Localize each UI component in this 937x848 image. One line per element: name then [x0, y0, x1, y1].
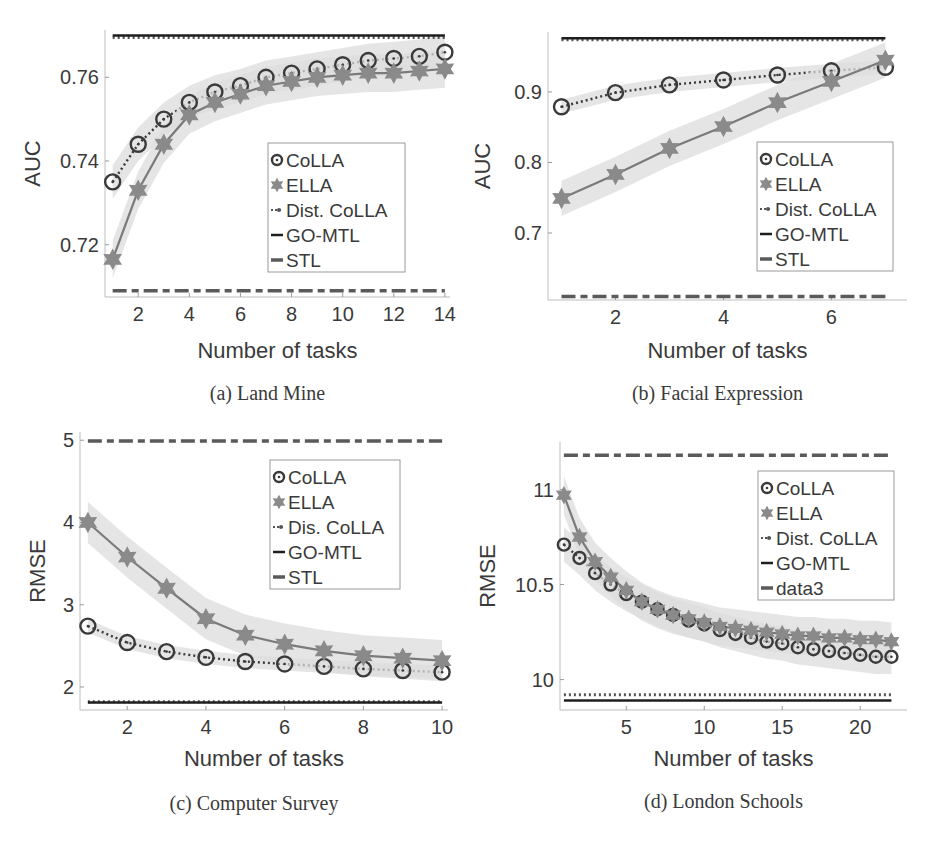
y-axis-label: AUC	[470, 143, 495, 190]
legend-entry: STL	[288, 567, 323, 588]
legend-entry: GO-MTL	[286, 225, 360, 246]
x-tick-label: 6	[235, 303, 246, 325]
x-tick-label: 8	[358, 716, 369, 738]
legend-entry: CoLLA	[286, 150, 344, 171]
x-axis-label: Number of tasks	[653, 746, 813, 771]
y-tick-label: 0.76	[60, 66, 99, 88]
legend-entry: GO-MTL	[288, 542, 362, 563]
legend-entry: Dist. CoLLA	[775, 199, 877, 220]
chart-london-schools: 1010.5115101520Number of tasksRMSE(d) Lo…	[470, 420, 937, 848]
chart-panel-c: 2345246810Number of tasksRMSE(c) Compute…	[0, 420, 470, 848]
figure-caption: (d) London Schools	[644, 790, 803, 813]
y-axis-label: RMSE	[475, 544, 500, 608]
legend: CoLLAELLADis. CoLLAGO-MTLSTL	[270, 460, 400, 589]
chart-panel-a: 0.720.740.762468101214Number of tasksAUC…	[0, 0, 470, 420]
x-tick-label: 4	[200, 716, 211, 738]
y-tick-label: 0.72	[60, 234, 99, 256]
legend-entry: CoLLA	[288, 467, 346, 488]
y-tick-label: 10	[532, 669, 554, 691]
x-tick-label: 2	[133, 303, 144, 325]
legend-entry: ELLA	[775, 174, 822, 195]
y-tick-label: 11	[533, 479, 554, 501]
legend-entry: CoLLA	[776, 478, 834, 499]
y-tick-label: 4	[63, 511, 74, 533]
figure-caption: (c) Computer Survey	[170, 792, 339, 815]
legend-entry: data3	[776, 578, 824, 599]
x-tick-label: 14	[434, 303, 456, 325]
y-tick-label: 0.9	[514, 81, 542, 103]
y-axis-label: RMSE	[25, 539, 50, 603]
x-tick-label: 12	[383, 303, 405, 325]
x-axis-label: Number of tasks	[184, 746, 344, 771]
legend: CoLLAELLADist. CoLLAGO-MTLdata3	[758, 471, 894, 600]
y-tick-label: 0.7	[514, 222, 542, 244]
y-axis-label: AUC	[20, 140, 45, 187]
y-tick-label: 10.5	[515, 574, 554, 596]
legend: CoLLAELLADist. CoLLAGO-MTLSTL	[757, 142, 893, 271]
x-tick-label: 2	[122, 716, 133, 738]
chart-panel-b: 0.70.80.9246Number of tasksAUC(b) Facial…	[470, 0, 937, 420]
x-tick-label: 4	[184, 303, 195, 325]
legend-entry: STL	[775, 249, 810, 270]
legend-entry: ELLA	[286, 175, 333, 196]
legend-entry: CoLLA	[775, 149, 833, 170]
y-tick-label: 0.74	[60, 150, 99, 172]
x-tick-label: 10	[431, 716, 453, 738]
y-tick-label: 5	[63, 429, 74, 451]
legend-entry: GO-MTL	[776, 553, 850, 574]
y-tick-label: 3	[63, 594, 74, 616]
x-tick-label: 10	[693, 716, 715, 738]
legend-entry: STL	[286, 250, 321, 271]
x-tick-label: 10	[332, 303, 354, 325]
x-tick-label: 5	[621, 716, 632, 738]
x-tick-label: 6	[279, 716, 290, 738]
chart-land-mine: 0.720.740.762468101214Number of tasksAUC…	[0, 0, 470, 420]
legend-entry: Dis. CoLLA	[288, 517, 384, 538]
chart-computer-survey: 2345246810Number of tasksRMSE(c) Compute…	[0, 420, 470, 848]
x-tick-label: 6	[826, 306, 837, 328]
x-tick-label: 20	[849, 716, 871, 738]
legend: CoLLAELLADist. CoLLAGO-MTLSTL	[268, 143, 405, 272]
legend-entry: Dist. CoLLA	[776, 528, 878, 549]
chart-panel-d: 1010.5115101520Number of tasksRMSE(d) Lo…	[470, 420, 937, 848]
x-axis-label: Number of tasks	[647, 338, 807, 363]
legend-entry: GO-MTL	[775, 224, 849, 245]
y-tick-label: 2	[63, 676, 74, 698]
x-tick-label: 15	[771, 716, 793, 738]
x-tick-label: 8	[286, 303, 297, 325]
x-axis-label: Number of tasks	[197, 338, 357, 363]
legend-entry: ELLA	[288, 492, 335, 513]
x-tick-label: 4	[718, 306, 729, 328]
y-tick-label: 0.8	[514, 151, 542, 173]
chart-facial-expression: 0.70.80.9246Number of tasksAUC(b) Facial…	[470, 0, 937, 420]
figure-caption: (a) Land Mine	[210, 382, 326, 405]
legend-entry: ELLA	[776, 503, 823, 524]
legend-entry: Dist. CoLLA	[286, 200, 388, 221]
figure-caption: (b) Facial Expression	[632, 382, 803, 405]
x-tick-label: 2	[610, 306, 621, 328]
